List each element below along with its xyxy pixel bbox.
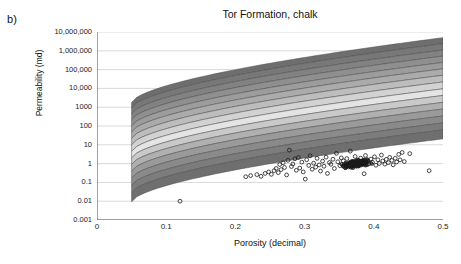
plot-area [97, 32, 443, 220]
data-point [321, 159, 325, 163]
data-point [380, 153, 384, 157]
data-point [244, 175, 248, 179]
y-tick-label: 1,000,000 [59, 47, 92, 55]
data-point [249, 174, 253, 178]
y-tick-label: 10,000,000 [54, 28, 92, 36]
data-point [353, 155, 357, 159]
y-tick-label: 1000 [75, 103, 92, 111]
chart-title: Tor Formation, chalk [97, 8, 443, 20]
x-tick-label: 0.4 [359, 223, 389, 231]
x-tick-label: 0.2 [220, 223, 250, 231]
x-tick-label: 0.3 [290, 223, 320, 231]
data-point [408, 152, 412, 156]
data-point [303, 177, 307, 181]
y-tick-label: 100,000 [65, 66, 92, 74]
data-point [362, 172, 366, 176]
data-point [336, 160, 340, 164]
data-point [298, 166, 302, 170]
data-point [393, 156, 397, 160]
plot-svg [97, 32, 443, 220]
data-point [324, 155, 328, 159]
data-point [376, 158, 380, 162]
y-tick-label: 10,000 [69, 84, 92, 92]
data-point [294, 168, 298, 172]
data-point [364, 154, 368, 158]
data-point [312, 161, 316, 165]
data-point [322, 164, 326, 168]
y-tick-label: 0.1 [82, 178, 92, 186]
panel-label: b) [7, 13, 17, 25]
data-point [255, 173, 259, 177]
data-point [305, 158, 309, 162]
y-tick-label: 10 [84, 141, 92, 149]
data-point [307, 164, 311, 168]
data-point [345, 157, 349, 161]
y-tick-label: 1 [88, 160, 92, 168]
data-point [332, 167, 336, 171]
x-axis-tick-labels: 00.10.20.30.40.5 [0, 223, 461, 237]
data-point [402, 160, 406, 164]
data-point [331, 157, 335, 161]
data-point [398, 158, 402, 162]
x-tick-label: 0.1 [151, 223, 181, 231]
data-point [326, 172, 330, 176]
x-tick-label: 0.5 [428, 223, 458, 231]
data-point [386, 161, 390, 165]
data-point [319, 169, 323, 173]
data-point [269, 172, 273, 176]
x-axis-title: Porosity (decimal) [97, 238, 443, 248]
data-point [400, 151, 404, 155]
data-point [315, 156, 319, 160]
data-point [427, 169, 431, 173]
data-point [285, 173, 289, 177]
data-point [301, 170, 305, 174]
data-point [373, 155, 377, 159]
data-point [259, 174, 263, 178]
data-point [283, 166, 287, 170]
y-tick-label: 100 [79, 122, 92, 130]
x-tick-label: 0 [82, 223, 112, 231]
figure-container: b) Tor Formation, chalk Permeability (md… [0, 0, 461, 264]
y-tick-label: 0.01 [77, 197, 92, 205]
permeability-contour-bands [132, 38, 443, 202]
